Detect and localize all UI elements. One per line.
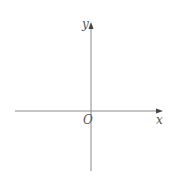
y-axis-label: y <box>82 18 89 30</box>
y-axis-arrow-icon <box>89 22 94 29</box>
origin-label: O <box>83 114 93 126</box>
x-axis-label: x <box>156 114 163 126</box>
coordinate-plane: y O x <box>0 0 172 178</box>
